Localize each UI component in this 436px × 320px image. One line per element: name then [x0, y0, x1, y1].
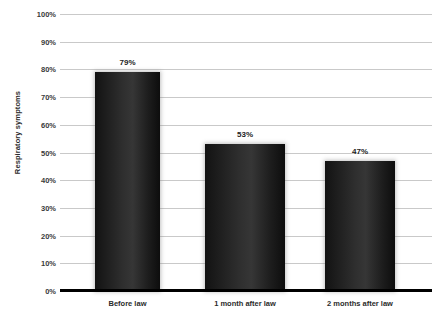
gridline [60, 42, 432, 43]
y-axis-tick-label: 90% [4, 37, 56, 46]
y-axis-tick-labels: 100%90%80%70%60%50%40%30%20%10%0% [0, 14, 56, 291]
plot-area: 79%53%47% [60, 14, 432, 291]
y-axis-tick-label: 10% [4, 259, 56, 268]
y-axis-tick-label: 100% [4, 10, 56, 19]
y-axis-tick-label: 60% [4, 120, 56, 129]
bar [95, 72, 160, 291]
y-axis-tick-label: 0% [4, 287, 56, 296]
y-axis-tick-label: 40% [4, 176, 56, 185]
y-axis-tick-label: 80% [4, 65, 56, 74]
bar-value-label: 47% [325, 147, 395, 156]
bar-value-label: 53% [205, 130, 285, 139]
y-axis-tick-label: 20% [4, 231, 56, 240]
bar-value-label: 79% [95, 58, 160, 67]
bar [325, 161, 395, 291]
x-axis-category-label: 1 month after law [180, 299, 310, 308]
gridline [60, 14, 432, 15]
bar [205, 144, 285, 291]
gridline [60, 69, 432, 70]
x-axis-line [60, 289, 432, 292]
y-axis-tick-label: 70% [4, 93, 56, 102]
bar-chart: Respiratory symptoms 100%90%80%70%60%50%… [0, 0, 436, 320]
x-axis-category-label: Before law [70, 299, 185, 308]
y-axis-tick-label: 30% [4, 203, 56, 212]
y-axis-tick-label: 50% [4, 148, 56, 157]
x-axis-category-label: 2 months after law [300, 299, 420, 308]
